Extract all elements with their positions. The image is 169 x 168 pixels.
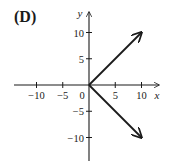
x-axis-label: x (154, 89, 160, 101)
axes (14, 12, 159, 161)
x-tick-label: 10 (136, 90, 147, 101)
x-tick-label: −10 (28, 90, 44, 101)
y-tick-label: −10 (68, 133, 84, 144)
x-tick-label: −5 (57, 90, 68, 101)
x-tick-label: 5 (113, 90, 118, 101)
y-tick-label: 10 (74, 28, 85, 39)
upper-ray (89, 33, 142, 86)
y-tick-label: −5 (73, 106, 84, 117)
tick-labels: xy−10−50510−10−5510 (28, 7, 159, 144)
graph: xy−10−50510−10−5510 (0, 0, 169, 168)
x-tick-label: 0 (79, 90, 84, 101)
y-tick-label: 5 (79, 54, 84, 65)
y-axis-label: y (77, 7, 83, 19)
